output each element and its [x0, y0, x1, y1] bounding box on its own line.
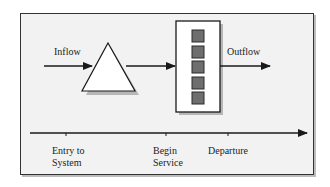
customer-square-icon — [192, 77, 204, 89]
outflow-label: Outflow — [227, 46, 260, 58]
customer-square-icon — [192, 61, 204, 73]
timeline-label-begin-service: Begin Service — [153, 145, 183, 168]
timeline-label-departure: Departure — [208, 145, 248, 157]
inflow-label: Inflow — [54, 46, 81, 58]
customer-squares — [192, 30, 204, 104]
timeline-label-entry-line2: System — [52, 157, 85, 169]
customer-square-icon — [192, 46, 204, 58]
timeline-label-begin-service-line1: Begin — [153, 145, 183, 157]
timeline-label-entry: Entry to System — [52, 145, 85, 168]
timeline-label-begin-service-line2: Service — [153, 157, 183, 169]
customer-square-icon — [192, 92, 204, 104]
timeline-label-departure-line1: Departure — [208, 145, 248, 157]
diagram-canvas: Inflow Outflow Entry to System Begin Ser… — [0, 0, 330, 187]
timeline-axis — [30, 133, 307, 136]
queue-triangle-icon — [82, 43, 139, 95]
customer-square-icon — [192, 30, 204, 42]
timeline-label-entry-line1: Entry to — [52, 145, 85, 157]
